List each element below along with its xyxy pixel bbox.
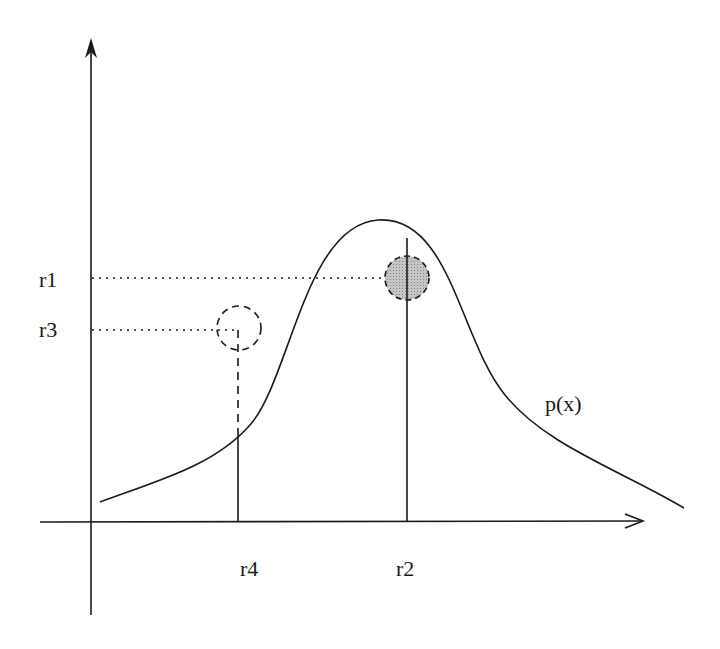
r1-label: r1: [39, 267, 57, 292]
r2-label: r2: [396, 556, 414, 581]
r4-label: r4: [240, 556, 258, 581]
y-axis: [85, 38, 97, 615]
r3-label: r3: [39, 317, 57, 342]
x-axis: [40, 514, 643, 528]
rejected-sample-marker: [217, 306, 261, 350]
curve-label: p(x): [545, 391, 582, 416]
diagram-canvas: r1 r3 r4 r2 p(x): [0, 0, 720, 649]
